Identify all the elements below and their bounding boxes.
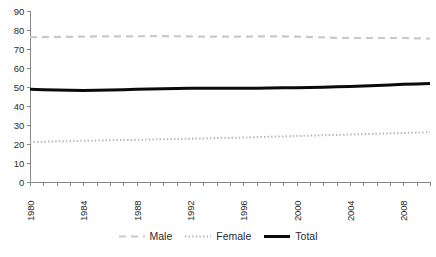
y-tick-label: 70 <box>0 44 24 55</box>
x-tick-mark <box>203 182 204 186</box>
x-tick-mark <box>230 182 231 186</box>
y-tick-mark <box>27 87 30 88</box>
y-tick-label: 40 <box>0 101 24 112</box>
y-tick-mark <box>27 125 30 126</box>
x-tick-mark <box>297 182 298 186</box>
x-tick-mark <box>190 182 191 186</box>
x-tick-label: 1980 <box>25 189 36 221</box>
x-tick-mark <box>243 182 244 186</box>
y-tick-mark <box>27 163 30 164</box>
y-tick-mark <box>27 106 30 107</box>
series-line-total <box>30 84 430 91</box>
x-tick-label: 2000 <box>292 189 303 221</box>
x-tick-label: 2004 <box>345 189 356 221</box>
y-tick-label: 80 <box>0 25 24 36</box>
x-tick-mark <box>57 182 58 186</box>
x-tick-mark <box>110 182 111 186</box>
y-axis-labels: 9080706050403020100 <box>0 0 28 257</box>
x-tick-mark <box>417 182 418 186</box>
x-tick-mark <box>350 182 351 186</box>
y-tick-label: 0 <box>0 177 24 188</box>
dotted-line-swatch <box>185 232 211 241</box>
y-tick-mark <box>27 182 30 183</box>
x-tick-mark <box>257 182 258 186</box>
x-tick-mark <box>163 182 164 186</box>
y-tick-label: 60 <box>0 63 24 74</box>
y-tick-mark <box>27 49 30 50</box>
x-tick-mark <box>310 182 311 186</box>
legend-item-male[interactable]: Male <box>119 230 173 242</box>
legend-label: Male <box>150 230 173 242</box>
x-tick-mark <box>30 182 31 186</box>
x-tick-mark <box>283 182 284 186</box>
y-tick-mark <box>27 11 30 12</box>
x-tick-mark <box>403 182 404 186</box>
x-tick-mark <box>363 182 364 186</box>
x-tick-label: 1984 <box>78 189 89 221</box>
x-tick-label: 1996 <box>238 189 249 221</box>
x-tick-mark <box>390 182 391 186</box>
chart-legend: MaleFemaleTotal <box>0 230 436 242</box>
x-tick-mark <box>70 182 71 186</box>
dashed-line-swatch <box>119 232 145 241</box>
y-tick-label: 30 <box>0 120 24 131</box>
x-tick-mark <box>97 182 98 186</box>
series-line-female <box>30 132 430 142</box>
x-tick-label: 1988 <box>132 189 143 221</box>
x-tick-mark <box>43 182 44 186</box>
x-tick-mark <box>137 182 138 186</box>
x-tick-mark <box>217 182 218 186</box>
x-tick-mark <box>123 182 124 186</box>
x-tick-mark <box>177 182 178 186</box>
y-tick-mark <box>27 144 30 145</box>
x-tick-mark <box>337 182 338 186</box>
x-tick-mark <box>323 182 324 186</box>
x-tick-label: 1992 <box>185 189 196 221</box>
legend-label: Female <box>216 230 251 242</box>
y-tick-label: 10 <box>0 158 24 169</box>
y-tick-mark <box>27 30 30 31</box>
series-line-male <box>30 36 430 38</box>
x-tick-mark <box>377 182 378 186</box>
line-chart: 9080706050403020100 19801984198819921996… <box>0 0 436 257</box>
chart-title-cropped <box>0 0 436 6</box>
y-tick-label: 90 <box>0 6 24 17</box>
solid-line-swatch <box>264 232 290 241</box>
x-tick-mark <box>83 182 84 186</box>
y-tick-label: 50 <box>0 82 24 93</box>
legend-label: Total <box>295 230 317 242</box>
x-tick-mark <box>150 182 151 186</box>
y-tick-label: 20 <box>0 139 24 150</box>
legend-item-female[interactable]: Female <box>185 230 251 242</box>
series-plot <box>30 11 430 182</box>
x-tick-label: 2008 <box>398 189 409 221</box>
x-tick-mark <box>270 182 271 186</box>
legend-item-total[interactable]: Total <box>264 230 317 242</box>
y-tick-mark <box>27 68 30 69</box>
x-tick-mark <box>430 182 431 186</box>
